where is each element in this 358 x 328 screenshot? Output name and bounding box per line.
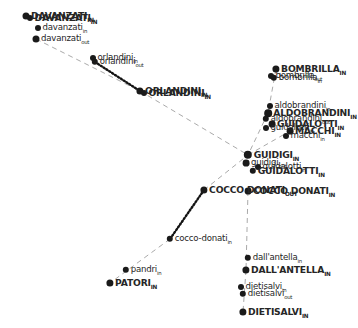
node-label-text: pandri bbox=[131, 264, 157, 274]
node-label: davanzatiout bbox=[41, 34, 89, 45]
node-label-suffix: IN bbox=[302, 313, 308, 319]
node-label: macchiin bbox=[291, 131, 325, 142]
node-label: ORLANDINIIN bbox=[149, 88, 211, 101]
node-label-suffix: in bbox=[298, 258, 302, 264]
node-label-text: bombrilla bbox=[276, 70, 315, 80]
node-label-text: orlandini bbox=[98, 52, 134, 62]
node-label-suffix: IN bbox=[324, 271, 330, 277]
node-label: dall'antellain bbox=[253, 253, 302, 264]
network-graph: DAVANZATIINDAVANZATIINdavanzatiindavanza… bbox=[0, 0, 358, 328]
node-label: pandriin bbox=[131, 265, 162, 276]
graph-node[interactable] bbox=[263, 125, 269, 131]
node-label-text: ORLANDINI bbox=[149, 87, 205, 98]
graph-node[interactable] bbox=[33, 36, 40, 43]
graph-node[interactable] bbox=[267, 103, 273, 109]
node-label-text: cocco-donati bbox=[175, 233, 228, 243]
node-label-text: davanzati bbox=[41, 33, 81, 43]
node-label-text: davanzati bbox=[43, 22, 83, 32]
node-label-text: GUIDALOTTI bbox=[258, 165, 319, 176]
node-label-text: DALL'ANTELLA bbox=[251, 264, 324, 275]
node-label-text: dietisalvi bbox=[248, 288, 285, 298]
graph-node[interactable] bbox=[35, 25, 41, 31]
node-label-suffix: out bbox=[314, 76, 322, 82]
node-label-suffix: in bbox=[133, 58, 137, 64]
node-label-suffix: in bbox=[157, 270, 161, 276]
node-label-suffix: in bbox=[320, 136, 324, 142]
graph-edge bbox=[170, 190, 204, 239]
node-label: bombrillaout bbox=[276, 71, 323, 82]
node-label: dietisalviout bbox=[248, 289, 292, 300]
node-label-suffix: in bbox=[83, 28, 87, 34]
node-label-suffix: IN bbox=[335, 132, 341, 138]
node-label-text: COCCO DONATI bbox=[253, 185, 329, 196]
node-label-suffix: IN bbox=[318, 172, 324, 178]
node-label: COCCO DONATIIN bbox=[253, 186, 335, 199]
node-label-suffix: IN bbox=[151, 284, 157, 290]
node-label-suffix: IN bbox=[340, 70, 346, 76]
node-label: cocco-donatiin bbox=[175, 234, 232, 245]
node-label: DALL'ANTELLAIN bbox=[251, 265, 330, 278]
graph-edge bbox=[140, 91, 248, 155]
node-label-suffix: out bbox=[81, 39, 89, 45]
graph-node[interactable] bbox=[238, 284, 244, 290]
node-label: DIETISALVIIN bbox=[248, 307, 308, 320]
node-label-suffix: IN bbox=[329, 192, 335, 198]
graph-node[interactable] bbox=[268, 73, 274, 79]
node-label-text: DIETISALVI bbox=[248, 306, 302, 317]
node-label-text: macchi bbox=[291, 130, 321, 140]
node-label-suffix: IN bbox=[91, 19, 97, 25]
node-label-text: dall'antella bbox=[253, 252, 298, 262]
node-label: orlandiniin bbox=[98, 53, 138, 64]
node-label-suffix: in bbox=[227, 239, 231, 245]
node-label-suffix: IN bbox=[204, 94, 210, 100]
node-label-suffix: out bbox=[284, 294, 292, 300]
node-label-text: PATORI bbox=[115, 277, 151, 288]
graph-node[interactable] bbox=[90, 55, 96, 61]
node-label: PATORIIN bbox=[115, 278, 157, 291]
node-label-suffix: IN bbox=[350, 114, 356, 120]
node-label: GUIDALOTTIIN bbox=[258, 166, 325, 179]
graph-node[interactable] bbox=[243, 160, 250, 167]
